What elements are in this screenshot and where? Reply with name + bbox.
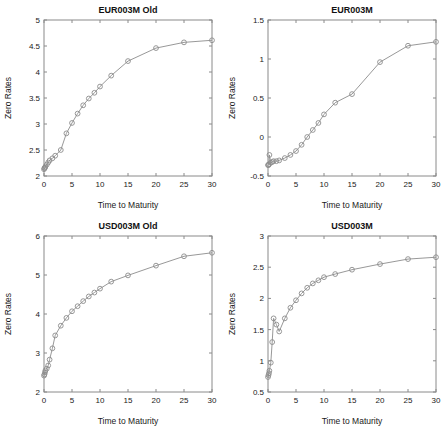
y-axis-label: Zero Rates xyxy=(227,293,237,335)
x-tick-label: 10 xyxy=(320,180,329,189)
y-tick-label: 2 xyxy=(36,388,41,397)
y-tick-label: 4.5 xyxy=(29,42,41,51)
y-tick-label: 1 xyxy=(260,357,265,366)
x-tick-label: 25 xyxy=(404,180,413,189)
x-tick-label: 15 xyxy=(124,396,133,405)
panel-eur003m-old: EUR003M Old05101520253022.533.544.55Time… xyxy=(0,0,224,216)
x-tick-label: 15 xyxy=(124,180,133,189)
series-usd003m xyxy=(266,255,439,380)
y-tick-label: 0 xyxy=(260,133,265,142)
x-tick-label: 0 xyxy=(266,396,271,405)
y-tick-label: -0.5 xyxy=(250,172,264,181)
panel-eur003m: EUR003M051015202530-0.500.511.5Time to M… xyxy=(224,0,448,216)
x-tick-label: 25 xyxy=(404,396,413,405)
x-tick-label: 30 xyxy=(208,180,217,189)
y-tick-label: 2 xyxy=(260,294,265,303)
x-tick-label: 10 xyxy=(96,396,105,405)
x-tick-label: 30 xyxy=(432,180,441,189)
x-tick-label: 25 xyxy=(180,180,189,189)
panel-usd003m: USD003M0510152025300.511.522.53Time to M… xyxy=(224,216,448,432)
series-usd003m-old xyxy=(42,250,215,378)
y-tick-label: 3 xyxy=(36,120,41,129)
x-tick-label: 30 xyxy=(432,396,441,405)
x-tick-label: 0 xyxy=(42,180,47,189)
series-eur003m-old xyxy=(42,38,215,172)
x-tick-label: 5 xyxy=(70,396,75,405)
panel-title: USD003M Old xyxy=(98,221,157,231)
series-eur003m xyxy=(266,39,439,167)
y-tick-label: 3 xyxy=(36,349,41,358)
y-axis-label: Zero Rates xyxy=(227,77,237,119)
y-tick-label: 2 xyxy=(36,172,41,181)
x-tick-label: 5 xyxy=(70,180,75,189)
y-tick-label: 1.5 xyxy=(253,16,265,25)
series-line xyxy=(44,253,212,376)
series-line xyxy=(268,42,436,165)
series-line xyxy=(44,40,212,169)
panel-title: EUR003M Old xyxy=(98,5,157,15)
x-tick-label: 20 xyxy=(152,396,161,405)
x-tick-label: 20 xyxy=(376,396,385,405)
x-tick-label: 15 xyxy=(348,180,357,189)
y-axis-label: Zero Rates xyxy=(3,293,13,335)
x-tick-label: 30 xyxy=(208,396,217,405)
x-tick-label: 15 xyxy=(348,396,357,405)
y-tick-label: 2.5 xyxy=(29,146,41,155)
x-axis-label: Time to Maturity xyxy=(98,416,159,426)
x-tick-label: 20 xyxy=(152,180,161,189)
y-axis-label: Zero Rates xyxy=(3,77,13,119)
panel-usd003m-old: USD003M Old05101520253023456Time to Matu… xyxy=(0,216,224,432)
x-axis-label: Time to Maturity xyxy=(98,200,159,210)
y-tick-label: 0.5 xyxy=(253,94,265,103)
y-tick-label: 5 xyxy=(36,16,41,25)
x-axis-label: Time to Maturity xyxy=(322,416,383,426)
y-tick-label: 1 xyxy=(260,55,265,64)
panel-title: EUR003M xyxy=(331,5,373,15)
x-tick-label: 10 xyxy=(320,396,329,405)
figure-four-panel-zero-rate-curves: EUR003M Old05101520253022.533.544.55Time… xyxy=(0,0,448,432)
x-axis-label: Time to Maturity xyxy=(322,200,383,210)
y-tick-label: 5 xyxy=(36,271,41,280)
x-tick-label: 0 xyxy=(42,396,47,405)
x-tick-label: 0 xyxy=(266,180,271,189)
y-tick-label: 6 xyxy=(36,232,41,241)
x-tick-label: 5 xyxy=(294,180,299,189)
x-tick-label: 10 xyxy=(96,180,105,189)
y-tick-label: 4 xyxy=(36,68,41,77)
y-tick-label: 0.5 xyxy=(253,388,265,397)
y-tick-label: 4 xyxy=(36,310,41,319)
y-tick-label: 3.5 xyxy=(29,94,41,103)
panel-title: USD003M xyxy=(331,221,373,231)
y-tick-label: 1.5 xyxy=(253,326,265,335)
x-tick-label: 20 xyxy=(376,180,385,189)
y-tick-label: 3 xyxy=(260,232,265,241)
x-tick-label: 25 xyxy=(180,396,189,405)
series-line xyxy=(268,257,436,377)
x-tick-label: 5 xyxy=(294,396,299,405)
y-tick-label: 2.5 xyxy=(253,263,265,272)
